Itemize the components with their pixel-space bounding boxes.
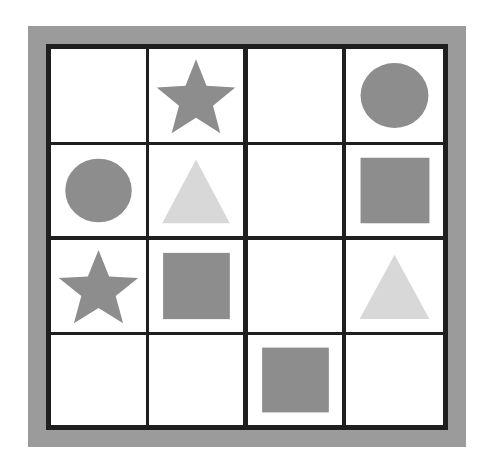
square-icon — [149, 240, 243, 332]
grid-cell-r1-c1[interactable] — [149, 145, 243, 236]
grid-cell-r1-c0[interactable] — [51, 145, 146, 236]
grid-cell-r1-c2[interactable] — [248, 145, 342, 236]
grid-cell-r1-c3[interactable] — [346, 145, 443, 236]
grid-cell-r0-c2[interactable] — [248, 49, 342, 142]
puzzle-grid — [46, 44, 448, 430]
grid-cell-r2-c1[interactable] — [149, 240, 243, 332]
circle-icon — [346, 49, 443, 142]
square-icon — [346, 145, 443, 236]
grid-cell-r3-c0[interactable] — [51, 335, 146, 425]
triangle-icon — [149, 145, 243, 236]
grid-cell-r0-c1[interactable] — [149, 49, 243, 142]
grid-cell-r2-c2[interactable] — [248, 240, 342, 332]
grid-cell-r3-c2[interactable] — [248, 335, 342, 425]
square-icon — [248, 335, 342, 425]
star-icon — [149, 49, 243, 142]
grid-cell-r0-c3[interactable] — [346, 49, 443, 142]
star-icon — [51, 240, 146, 332]
circle-icon — [51, 145, 146, 236]
grid-cell-r0-c0[interactable] — [51, 49, 146, 142]
grid-cell-r3-c3[interactable] — [346, 335, 443, 425]
grid-cell-r3-c1[interactable] — [149, 335, 243, 425]
grid-cell-r2-c3[interactable] — [346, 240, 443, 332]
triangle-icon — [346, 240, 443, 332]
grid-cell-r2-c0[interactable] — [51, 240, 146, 332]
